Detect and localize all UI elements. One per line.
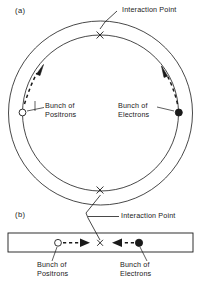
electron-bunch-marker-b	[135, 239, 142, 246]
diagram-canvas	[0, 0, 202, 284]
panel-a-ring-group	[9, 21, 193, 205]
electron-bunch-label-a-line2: Electrons	[118, 111, 149, 120]
positron-direction-arrow-a	[25, 65, 44, 105]
positron-bunch-label-b-line2: Positrons	[37, 270, 68, 279]
positron-bunch-marker-a	[19, 109, 26, 116]
electron-direction-arrow-b	[112, 239, 134, 247]
electron-bunch-marker-a	[175, 109, 182, 116]
positron-leader-b	[52, 247, 57, 261]
electron-leader-b	[140, 247, 147, 261]
interaction-point-x-bottom	[97, 187, 104, 194]
positron-leader-a	[27, 101, 44, 111]
positron-bunch-marker-b	[55, 239, 62, 246]
ring-outer-circle	[9, 21, 193, 205]
interaction-point-label-a: Interaction Point	[122, 6, 177, 15]
panel-a-tag: (a)	[15, 7, 25, 16]
interaction-point-label-b: Interaction Point	[121, 212, 176, 221]
positron-direction-arrow-b	[63, 239, 90, 247]
electron-direction-arrow-a	[162, 66, 178, 104]
interaction-point-leader-a	[100, 11, 117, 29]
panel-b-tag: (b)	[15, 211, 25, 220]
positron-bunch-label-a-line2: Positrons	[45, 111, 76, 120]
interaction-point-x-linac	[97, 240, 103, 246]
collider-diagram: (a) Interaction Point Bunch of Positrons…	[0, 0, 202, 284]
electron-leader-a	[157, 107, 174, 111]
electron-bunch-label-b-line2: Electrons	[120, 270, 151, 279]
